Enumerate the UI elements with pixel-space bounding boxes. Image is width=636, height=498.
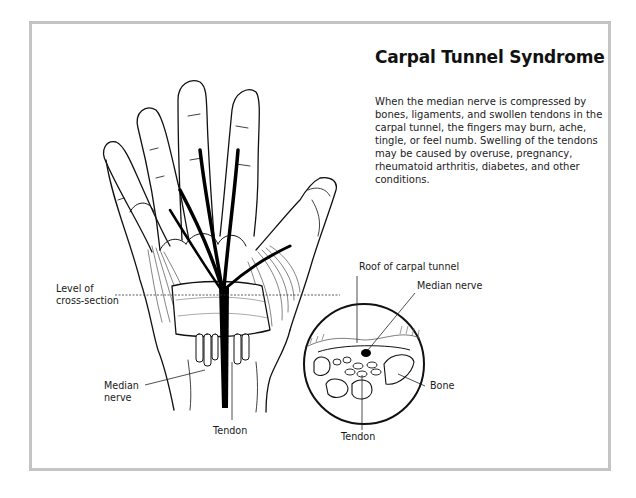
- figure-title: Carpal Tunnel Syndrome: [375, 47, 605, 67]
- figure-description: When the median nerve is compressed by b…: [375, 95, 615, 186]
- label-line: cross-section: [56, 295, 119, 307]
- median-nerve-leader: [145, 370, 205, 385]
- label-level-of-cross-section: Level of cross-section: [56, 283, 119, 307]
- label-tendon-cross-section: Tendon: [341, 431, 375, 443]
- label-tendon: Tendon: [213, 425, 247, 437]
- wrist-right-outline: [266, 330, 290, 412]
- label-line: Level of: [56, 283, 119, 295]
- description-line: When the median nerve is compressed by: [375, 95, 615, 108]
- description-line: rheumatoid arthritis, diabetes, and othe…: [375, 160, 615, 173]
- median-nerve-trunk: [219, 286, 229, 408]
- description-line: may be caused by overuse, pregnancy,: [375, 147, 615, 160]
- median-nerve-dot: [361, 349, 371, 357]
- thumb-outline: [256, 178, 336, 330]
- hand-illustration: [0, 0, 636, 498]
- description-line: carpal tunnel, the fingers may burn, ach…: [375, 121, 615, 134]
- little-finger-outline: [104, 142, 170, 252]
- label-median-nerve: Median nerve: [104, 380, 139, 404]
- label-roof-of-carpal-tunnel: Roof of carpal tunnel: [359, 261, 459, 273]
- label-line: Median: [104, 380, 139, 392]
- description-line: conditions.: [375, 173, 615, 186]
- label-median-nerve-cross-section: Median nerve: [417, 280, 482, 292]
- description-line: tingle, or feel numb. Swelling of the te…: [375, 134, 615, 147]
- index-finger-outline: [220, 90, 259, 236]
- cross-section-diagram: [304, 304, 424, 424]
- median-nerve-branch-2: [200, 150, 222, 288]
- label-bone: Bone: [430, 380, 454, 392]
- median-nerve-branch-1: [180, 190, 222, 288]
- description-line: bones, ligaments, and swollen tendons in…: [375, 108, 615, 121]
- label-line: nerve: [104, 392, 139, 404]
